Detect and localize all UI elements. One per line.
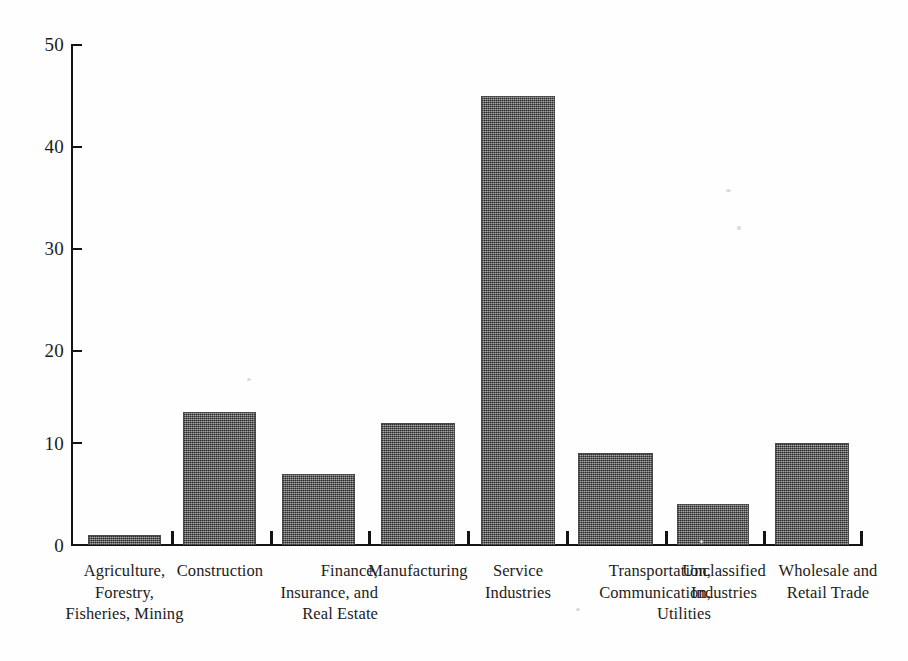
bar-manufacturing [381, 423, 455, 545]
scan-speckle [247, 378, 251, 381]
y-axis-tick-label: 10 [24, 434, 64, 453]
y-axis-tick-label: 20 [24, 341, 64, 360]
x-axis-tick [763, 531, 766, 545]
bar-chart: 50 40 30 20 10 0 Agriculture,Forestry,Fi… [0, 0, 908, 661]
y-axis-tick [71, 44, 82, 46]
x-axis-tick [171, 531, 174, 545]
y-axis-tick [71, 248, 82, 250]
y-axis-tick [71, 442, 82, 444]
bar-transportation-communication-utilities [578, 453, 653, 545]
x-axis-tick [665, 531, 668, 545]
x-axis-tick [860, 531, 863, 545]
bar-finance-insurance-real-estate [282, 474, 355, 545]
x-axis-category-label-line: Utilities [544, 603, 711, 625]
y-axis-tick-label: 40 [24, 137, 64, 156]
x-axis-category-label-line: Wholesale and [760, 560, 896, 582]
y-axis-tick [71, 350, 82, 352]
bar-wholesale-and-retail-trade [775, 443, 849, 545]
bar-agriculture-forestry-fisheries-mining [88, 535, 161, 545]
x-axis-tick [467, 531, 470, 545]
x-axis-category-label: Wholesale andRetail Trade [760, 560, 896, 603]
x-axis-category-label-line: Real Estate [258, 603, 378, 625]
plot-area: 50 40 30 20 10 0 Agriculture,Forestry,Fi… [0, 0, 908, 661]
x-axis-category-label-line: Fisheries, Mining [52, 603, 197, 625]
x-axis-category-label-line: Retail Trade [760, 582, 896, 604]
y-axis-tick-label: 50 [24, 35, 64, 54]
y-axis-tick-label: 0 [24, 536, 64, 555]
bar-unclassified-industries [677, 504, 749, 545]
x-axis-category-label-line: Forestry, [52, 582, 197, 604]
x-axis-tick [270, 531, 273, 545]
y-axis-tick [71, 146, 82, 148]
x-axis-tick [566, 531, 569, 545]
x-axis-tick [368, 531, 371, 545]
scan-speckle [737, 226, 741, 230]
y-axis-tick-label: 30 [24, 239, 64, 258]
scan-speckle [726, 189, 731, 192]
bar-construction [183, 412, 256, 545]
bar-service-industries [481, 96, 555, 545]
y-axis-line [71, 45, 73, 546]
x-axis-category-label-line: Insurance, and [258, 582, 378, 604]
